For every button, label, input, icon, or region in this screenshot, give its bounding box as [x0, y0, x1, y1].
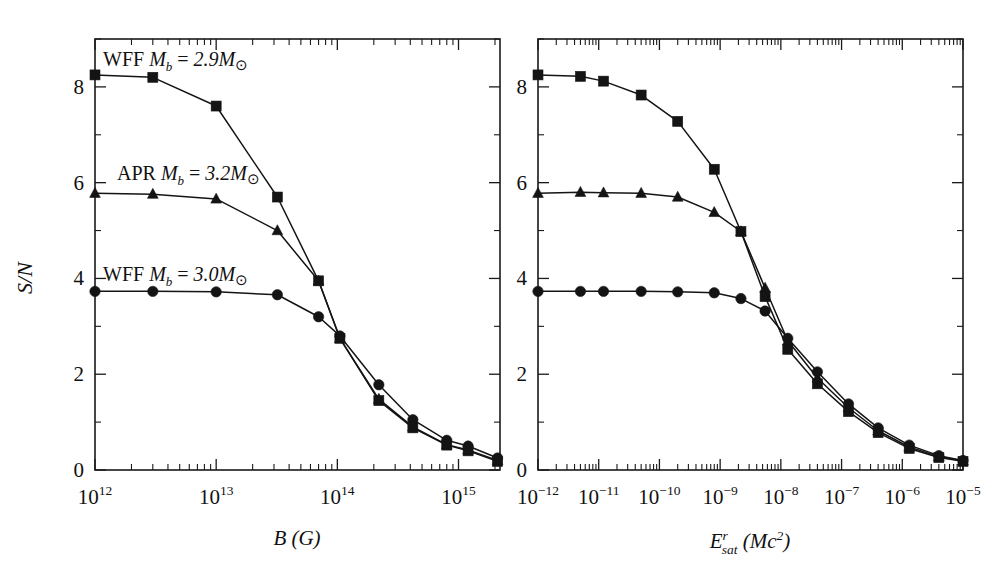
data-point-circle — [533, 286, 543, 296]
data-point-circle — [760, 306, 770, 316]
data-point-square — [673, 116, 683, 126]
y-tick-label: 2 — [517, 362, 528, 386]
data-point-square — [148, 72, 158, 82]
x-tick-label: 10−8 — [763, 483, 799, 509]
x-tick-label: 10−5 — [945, 483, 981, 509]
x-tick-label: 10−7 — [824, 483, 860, 509]
data-point-circle — [575, 286, 585, 296]
y-tick-label: 6 — [517, 171, 528, 195]
data-point-circle — [335, 331, 345, 341]
data-point-circle — [211, 287, 221, 297]
annotation-apr-3p2: APR Mb = 3.2M⊙ — [117, 162, 260, 188]
left-x-axis-title-text: B (G) — [273, 526, 320, 550]
series-line-0 — [538, 75, 963, 461]
right-panel: 10−1210−1110−1010−910−810−710−610−502468… — [517, 39, 981, 557]
y-tick-label: 0 — [517, 458, 528, 482]
data-point-circle — [904, 440, 914, 450]
y-tick-label: 4 — [517, 266, 528, 290]
y-axis-label: S/N — [12, 261, 37, 294]
x-tick-label: 1014 — [320, 483, 355, 509]
left-x-axis-title: B (G) — [273, 526, 320, 550]
data-point-square — [90, 70, 100, 80]
annotation-wff-3p0: WFF Mb = 3.0M⊙ — [103, 263, 248, 289]
data-point-square — [709, 164, 719, 174]
figure-container: S/N 101210131014101502468 WFF Mb = 2.9M⊙… — [0, 0, 986, 576]
y-tick-label: 8 — [74, 75, 85, 99]
x-tick-label: 1015 — [441, 483, 476, 509]
data-point-square — [211, 101, 221, 111]
y-axis-label-text: S/N — [12, 261, 37, 294]
data-point-circle — [313, 312, 323, 322]
x-tick-label: 10−10 — [638, 483, 680, 509]
right-x-axis-title-text: Ersat (Mc2) — [709, 528, 791, 557]
data-point-triangle — [272, 225, 283, 235]
x-tick-label: 10−11 — [578, 483, 620, 509]
data-point-circle — [598, 286, 608, 296]
data-point-square — [575, 71, 585, 81]
annotation-apr-3p2-text: APR Mb = 3.2M⊙ — [117, 162, 260, 188]
x-tick-label: 10−6 — [885, 483, 921, 509]
data-point-circle — [374, 380, 384, 390]
data-point-triangle — [636, 187, 647, 197]
data-point-circle — [636, 286, 646, 296]
y-tick-label: 4 — [74, 266, 85, 290]
series-line-2 — [538, 291, 963, 460]
series-line-1 — [95, 193, 498, 460]
y-tick-label: 6 — [74, 171, 85, 195]
x-tick-label: 10−12 — [517, 483, 559, 509]
annotation-wff-2p9-text: WFF Mb = 2.9M⊙ — [103, 48, 248, 74]
data-point-square — [599, 76, 609, 86]
x-tick-label: 10−9 — [702, 483, 738, 509]
data-point-circle — [408, 415, 418, 425]
data-point-circle — [272, 290, 282, 300]
data-point-circle — [709, 288, 719, 298]
data-point-circle — [934, 450, 944, 460]
x-tick-label: 1013 — [199, 483, 234, 509]
data-point-circle — [90, 286, 100, 296]
data-point-triangle — [575, 186, 586, 196]
y-tick-label: 8 — [517, 75, 528, 99]
series-line-1 — [538, 192, 963, 461]
data-point-square — [533, 70, 543, 80]
left-panel: 101210131014101502468 WFF Mb = 2.9M⊙ APR… — [74, 39, 503, 550]
data-point-square — [636, 90, 646, 100]
data-point-circle — [736, 293, 746, 303]
annotation-wff-2p9: WFF Mb = 2.9M⊙ — [103, 48, 248, 74]
right-panel-series — [533, 70, 969, 466]
series-line-2 — [95, 291, 498, 458]
data-point-circle — [673, 287, 683, 297]
data-point-circle — [873, 423, 883, 433]
data-point-circle — [463, 441, 473, 451]
data-point-circle — [812, 367, 822, 377]
data-point-circle — [492, 453, 502, 463]
data-point-circle — [958, 455, 968, 465]
y-tick-label: 2 — [74, 362, 85, 386]
x-tick-label: 1012 — [78, 483, 113, 509]
data-point-circle — [783, 333, 793, 343]
data-point-circle — [442, 435, 452, 445]
annotation-wff-3p0-text: WFF Mb = 3.0M⊙ — [103, 263, 248, 289]
data-point-circle — [843, 399, 853, 409]
right-x-axis-title: Ersat (Mc2) — [709, 528, 791, 557]
data-point-square — [272, 192, 282, 202]
data-point-triangle — [90, 187, 101, 197]
y-tick-label: 0 — [74, 458, 85, 482]
data-point-circle — [148, 286, 158, 296]
chart-svg: S/N 101210131014101502468 WFF Mb = 2.9M⊙… — [0, 0, 986, 576]
